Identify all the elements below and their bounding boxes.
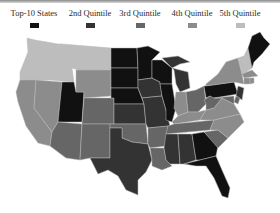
legend-swatch xyxy=(188,23,197,28)
state-ms xyxy=(164,134,180,164)
legend-label: 2nd Quintile xyxy=(62,8,118,19)
state-ri xyxy=(250,78,254,84)
state-oh xyxy=(186,86,206,112)
state-sd xyxy=(111,68,138,88)
state-ks xyxy=(114,104,146,124)
legend-item-3rd-quintile: 3rd Quintile xyxy=(112,8,168,28)
state-in xyxy=(174,92,188,116)
legend-swatch xyxy=(236,23,245,28)
state-fl xyxy=(184,156,230,198)
state-me xyxy=(248,32,270,68)
state-nd xyxy=(111,48,138,68)
legend-swatch xyxy=(86,23,95,28)
state-az xyxy=(50,122,82,160)
legend-item-5th-quintile: 5th Quintile xyxy=(212,8,268,28)
legend-label: Top-10 States xyxy=(6,8,62,19)
legend-label: 5th Quintile xyxy=(212,8,268,19)
state-ny xyxy=(206,58,244,86)
legend-label: 3rd Quintile xyxy=(112,8,168,19)
us-choropleth-map xyxy=(0,30,280,213)
top-rule xyxy=(0,0,280,3)
state-nm xyxy=(80,124,110,160)
state-ct xyxy=(244,78,250,84)
legend-swatch xyxy=(30,23,39,28)
legend-swatch xyxy=(136,23,145,28)
state-co xyxy=(82,98,114,124)
legend-item-top10: Top-10 States xyxy=(6,8,62,28)
legend: Top-10 States 2nd Quintile 3rd Quintile … xyxy=(0,8,280,32)
legend-item-2nd-quintile: 2nd Quintile xyxy=(62,8,118,28)
